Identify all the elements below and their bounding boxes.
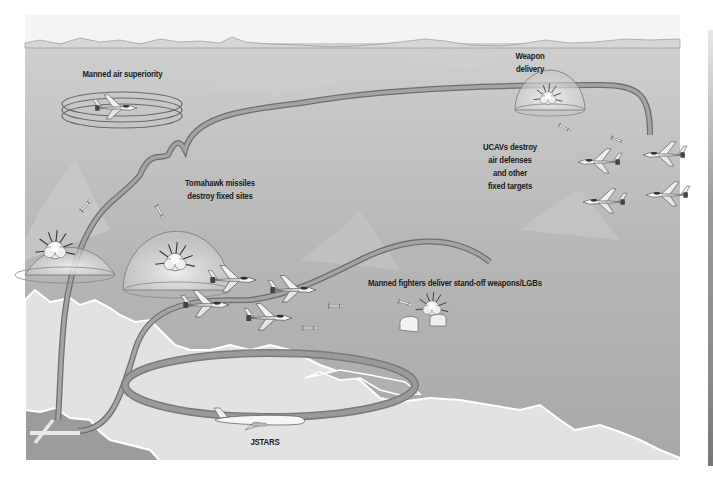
page-edge-strip <box>708 30 713 466</box>
label-text: Manned fighters deliver stand-off weapon… <box>368 276 532 289</box>
label-line: destroy fixed sites <box>179 189 261 202</box>
label-manned-fighters: Manned fighters deliver stand-off weapon… <box>368 276 532 289</box>
label-line: delivery <box>505 62 554 75</box>
label-line: air defenses <box>481 153 538 166</box>
label-text: JSTARS <box>245 435 286 448</box>
label-ucavs: UCAVs destroy air defenses and other fix… <box>481 140 538 192</box>
label-text: Manned air superiority <box>71 67 174 80</box>
label-line: UCAVs destroy <box>481 140 538 153</box>
label-line: Weapon <box>505 49 554 62</box>
label-line: and other <box>481 166 538 179</box>
label-line: Tomahawk missiles <box>179 176 261 189</box>
label-manned-air-superiority: Manned air superiority <box>71 67 174 80</box>
label-tomahawk: Tomahawk missiles destroy fixed sites <box>179 176 261 202</box>
label-jstars: JSTARS <box>245 435 286 448</box>
label-weapon-delivery: Weapon delivery <box>505 49 554 75</box>
label-line: fixed targets <box>481 179 538 192</box>
